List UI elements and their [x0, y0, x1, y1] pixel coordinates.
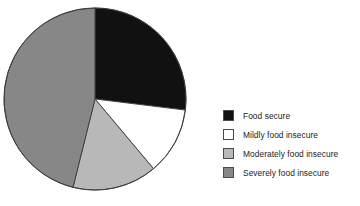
- legend-label-mildly-food-insecure: Mildly food insecure: [243, 130, 318, 140]
- legend-item-mildly-food-insecure[interactable]: Mildly food insecure: [223, 125, 358, 144]
- legend-swatch-severely-food-insecure: [223, 167, 234, 178]
- legend-label-food-secure: Food secure: [243, 111, 290, 121]
- legend-item-food-secure[interactable]: Food secure: [223, 106, 358, 125]
- pie-slice[interactable]: [95, 8, 186, 110]
- legend-swatch-moderately-food-insecure: [223, 148, 234, 159]
- pie-chart-figure: Food secure Mildly food insecure Moderat…: [0, 0, 360, 206]
- chart-legend: Food secure Mildly food insecure Moderat…: [223, 106, 358, 182]
- legend-label-severely-food-insecure: Severely food insecure: [243, 168, 329, 178]
- pie-slice-group: [4, 8, 186, 190]
- legend-item-severely-food-insecure[interactable]: Severely food insecure: [223, 163, 358, 182]
- legend-item-moderately-food-insecure[interactable]: Moderately food insecure: [223, 144, 358, 163]
- legend-swatch-food-secure: [223, 110, 234, 121]
- legend-swatch-mildly-food-insecure: [223, 129, 234, 140]
- legend-label-moderately-food-insecure: Moderately food insecure: [243, 149, 338, 159]
